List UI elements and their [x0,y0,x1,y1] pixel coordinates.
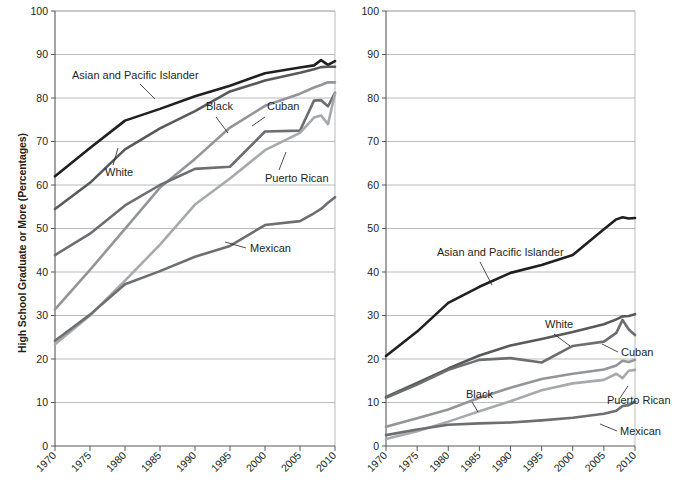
chart-high-school: 0102030405060708090100197019751980198519… [0,0,340,486]
ytick-label-100: 100 [30,5,48,17]
xtick-label-2000: 2000 [551,449,576,474]
ytick-label-90: 90 [36,48,48,60]
series-label-white: White [545,318,573,330]
xtick-label-1990: 1990 [173,449,198,474]
ytick-label-30: 30 [367,309,379,321]
ytick-label-80: 80 [36,92,48,104]
ytick-label-70: 70 [367,135,379,147]
ytick-label-30: 30 [36,309,48,321]
ytick-label-90: 90 [367,48,379,60]
xtick-label-1985: 1985 [458,449,483,474]
panel-high-school: High School Graduate or More (Percentage… [0,0,340,486]
ytick-label-10: 10 [36,396,48,408]
panel-college: College Graduate or More (Percentages) 0… [338,0,676,486]
xtick-label-1985: 1985 [138,449,163,474]
xtick-label-2010: 2010 [313,449,338,474]
y-axis-title-left: High School Graduate or More (Percentage… [14,0,30,486]
leader-line-asian-and-pacific-islander [140,84,155,99]
ytick-label-70: 70 [36,135,48,147]
ytick-label-20: 20 [36,353,48,365]
ytick-label-0: 0 [42,440,48,452]
ytick-label-80: 80 [367,92,379,104]
ytick-label-50: 50 [36,222,48,234]
series-label-puerto-rican: Puerto Rican [607,394,671,406]
ytick-label-10: 10 [367,396,379,408]
xtick-label-2005: 2005 [278,449,303,474]
xtick-label-1970: 1970 [33,449,58,474]
xtick-label-1980: 1980 [103,449,128,474]
series-label-black: Black [206,100,233,112]
series-label-mexican: Mexican [620,425,661,437]
leader-line-cuban [602,344,618,352]
ytick-label-40: 40 [36,266,48,278]
ytick-label-60: 60 [367,179,379,191]
ytick-label-20: 20 [367,353,379,365]
xtick-label-1995: 1995 [520,449,545,474]
series-line-mexican [55,197,335,341]
chart-college: 0102030405060708090100197019751980198519… [338,0,676,486]
series-label-puerto-rican: Puerto Rican [265,172,329,184]
series-line-white [55,67,335,209]
series-label-white: White [105,166,133,178]
series-label-asian-and-pacific-islander: Asian and Pacific Islander [72,69,199,81]
ytick-label-100: 100 [361,5,379,17]
xtick-label-1995: 1995 [208,449,233,474]
leader-line-black [216,117,228,133]
xtick-label-1980: 1980 [427,449,452,474]
series-label-cuban: Cuban [621,346,653,358]
series-label-cuban: Cuban [267,100,299,112]
leader-line-mexican [600,424,617,431]
ytick-label-0: 0 [373,440,379,452]
xtick-label-1990: 1990 [489,449,514,474]
ytick-label-50: 50 [367,222,379,234]
leader-line-black [472,402,478,412]
xtick-label-1970: 1970 [364,449,389,474]
xtick-label-1975: 1975 [68,449,93,474]
series-line-black [55,82,335,309]
series-line-black [386,360,635,427]
series-label-mexican: Mexican [250,242,291,254]
ytick-label-40: 40 [367,266,379,278]
series-label-black: Black [466,388,493,400]
series-label-asian-and-pacific-islander: Asian and Pacific Islander [437,246,564,258]
ytick-label-60: 60 [36,179,48,191]
leader-line-puerto-rican [279,152,286,170]
xtick-label-2005: 2005 [582,449,607,474]
leader-line-cuban [252,117,265,126]
xtick-label-2010: 2010 [613,449,638,474]
xtick-label-2000: 2000 [243,449,268,474]
series-line-asian-and-pacific-islander [386,217,635,356]
figure-two-panel-line-charts: High School Graduate or More (Percentage… [0,0,676,486]
leader-line-asian-and-pacific-islander [480,262,492,285]
leader-line-white [554,334,570,346]
xtick-label-1975: 1975 [396,449,421,474]
